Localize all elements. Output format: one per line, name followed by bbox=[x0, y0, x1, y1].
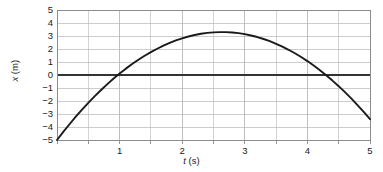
y-axis-tick-label: 2 bbox=[37, 44, 53, 54]
x-axis-title: t (s) bbox=[0, 156, 383, 166]
y-axis-tick-label: 5 bbox=[37, 5, 53, 15]
x-axis-tick-label: 3 bbox=[238, 146, 252, 156]
y-axis-tick-label: −2 bbox=[37, 96, 53, 106]
y-axis-symbol: x bbox=[9, 77, 20, 82]
x-axis-tick-label: 5 bbox=[363, 146, 377, 156]
y-axis-tick-label: −5 bbox=[37, 135, 53, 145]
x-axis-tick-label: 1 bbox=[113, 146, 127, 156]
x-axis-unit: (s) bbox=[186, 155, 200, 166]
y-axis-tick-label: −1 bbox=[37, 83, 53, 93]
y-axis-title: x (m) bbox=[10, 40, 20, 102]
plot-canvas bbox=[0, 0, 383, 172]
y-axis-unit: (m) bbox=[9, 60, 20, 77]
x-axis-ticks bbox=[57, 140, 370, 144]
y-axis-tick-label: 1 bbox=[37, 57, 53, 67]
y-axis-tick-label: 3 bbox=[37, 31, 53, 41]
chart-figure: 543210−1−2−3−4−5 12345 t (s) x (m) bbox=[0, 0, 383, 172]
y-axis-tick-label: 4 bbox=[37, 18, 53, 28]
x-axis-tick-label: 4 bbox=[300, 146, 314, 156]
y-axis-tick-label: −3 bbox=[37, 109, 53, 119]
y-axis-tick-label: −4 bbox=[37, 122, 53, 132]
y-axis-tick-label: 0 bbox=[37, 70, 53, 80]
